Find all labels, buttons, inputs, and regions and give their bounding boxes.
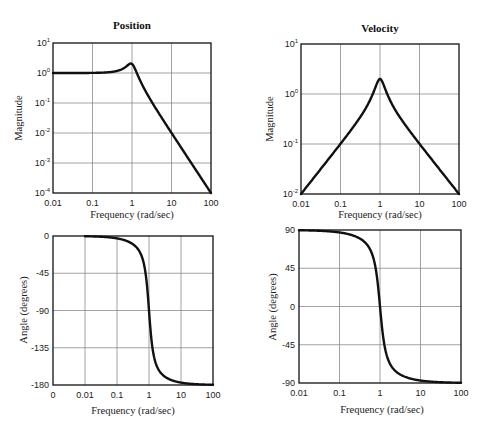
velocity-phase-ylabel: Angle (degrees) [267, 273, 279, 341]
y-tick-label: -90 [282, 378, 295, 388]
x-tick-label: 1 [377, 388, 382, 398]
y-tick-label: 90 [285, 225, 295, 235]
x-tick-label: 10 [415, 388, 425, 398]
velocity-phase-xticks: 0.010.1110100 [290, 388, 468, 398]
x-tick-label: 0.01 [44, 198, 62, 208]
position-phase-grid [53, 236, 213, 385]
position-phase-xticks: 00.010.1110100 [50, 390, 220, 400]
y-tick-label: -180 [31, 380, 49, 390]
velocity-phase-xlabel: Frequency (rad/sec) [340, 404, 424, 416]
position-magnitude-ylabel: Magnitude [13, 95, 24, 141]
x-tick-label: 10 [414, 199, 424, 209]
position-phase-yticks: 0-45-90-135-180 [31, 231, 49, 390]
x-tick-label: 0 [50, 390, 55, 400]
x-tick-label: 0.01 [290, 388, 308, 398]
x-tick-label: 0.1 [86, 198, 99, 208]
x-tick-label: 10 [176, 390, 186, 400]
position-magnitude-yticks: 10110010-110-210-310-4 [35, 37, 51, 198]
velocity-magnitude-yticks: 10110010-110-2 [283, 38, 299, 199]
x-tick-label: 100 [451, 199, 466, 209]
y-tick-label: 10-1 [35, 97, 51, 108]
x-tick-label: 10 [166, 198, 176, 208]
velocity-magnitude-xticks: 0.010.1110100 [292, 199, 466, 209]
position-magnitude-plot: Position 10110010-110-210-310-4 0.010.11… [13, 19, 219, 221]
x-tick-label: 1 [129, 198, 134, 208]
y-tick-label: 100 [37, 67, 51, 78]
y-tick-label: 101 [37, 37, 51, 48]
x-tick-label: 0.1 [333, 388, 346, 398]
y-tick-label: 10-2 [35, 127, 51, 138]
x-tick-label: 100 [453, 388, 468, 398]
y-tick-label: -90 [36, 306, 49, 316]
x-tick-label: 0.1 [334, 199, 347, 209]
velocity-magnitude-xlabel: Frequency (rad/sec) [338, 209, 422, 221]
x-tick-label: 0.1 [111, 390, 124, 400]
x-tick-label: 1 [377, 199, 382, 209]
y-tick-label: 100 [285, 88, 299, 99]
position-phase-plot: 0-45-90-135-180 00.010.1110100 Frequency… [18, 231, 221, 417]
position-phase-xlabel: Frequency (rad/sec) [91, 405, 175, 417]
velocity-magnitude-ylabel: Magnitude [264, 96, 275, 142]
position-magnitude-xticks: 0.010.1110100 [44, 198, 218, 208]
y-tick-label: 10-4 [35, 187, 51, 198]
y-tick-label: 10-3 [35, 157, 51, 168]
velocity-magnitude-plot: Velocity 10110010-110-2 0.010.1110100 Fr… [264, 22, 467, 221]
y-tick-label: -45 [282, 340, 295, 350]
position-title: Position [113, 19, 151, 31]
velocity-phase-yticks: 90450-45-90 [282, 225, 295, 388]
x-tick-label: 0.01 [76, 390, 94, 400]
y-tick-label: 10-1 [283, 138, 299, 149]
y-tick-label: 45 [285, 263, 295, 273]
y-tick-label: -135 [31, 343, 49, 353]
x-tick-label: 1 [146, 390, 151, 400]
bode-figure: Position 10110010-110-210-310-4 0.010.11… [0, 0, 484, 436]
x-tick-label: 100 [205, 390, 220, 400]
x-tick-label: 0.01 [292, 199, 310, 209]
position-magnitude-xlabel: Frequency (rad/sec) [90, 209, 174, 221]
x-tick-label: 100 [203, 198, 218, 208]
y-tick-label: -45 [36, 268, 49, 278]
y-tick-label: 0 [290, 302, 295, 312]
y-tick-label: 101 [285, 38, 299, 49]
velocity-phase-plot: 90450-45-90 0.010.1110100 Frequency (rad… [267, 225, 469, 416]
y-tick-label: 0 [44, 231, 49, 241]
y-tick-label: 10-2 [283, 188, 299, 199]
velocity-title: Velocity [361, 22, 399, 34]
position-phase-ylabel: Angle (degrees) [18, 276, 30, 344]
velocity-magnitude-grid [301, 44, 459, 194]
